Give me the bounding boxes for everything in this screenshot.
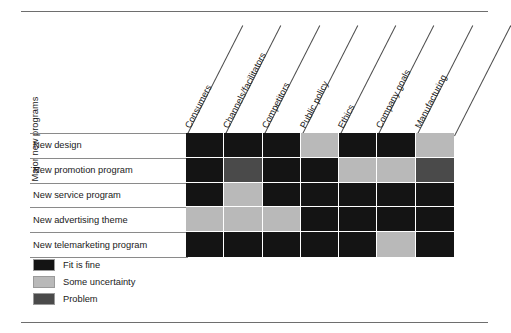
matrix-cell <box>263 207 301 232</box>
column-label: Channels/facilitators <box>221 51 268 130</box>
row-separator <box>30 133 188 134</box>
legend-label: Some uncertainty <box>63 277 135 287</box>
row-separator <box>30 183 188 184</box>
row-label: New promotion program <box>33 165 188 175</box>
matrix-cell <box>186 158 224 183</box>
column-label: Public policy <box>298 79 330 130</box>
top-divider-rule <box>21 11 488 12</box>
matrix-cell <box>377 183 415 208</box>
row-label: New service program <box>33 190 188 200</box>
matrix-cell <box>301 133 339 158</box>
legend-item: Problem <box>33 291 233 307</box>
matrix-cell <box>416 183 454 208</box>
matrix-cell <box>186 207 224 232</box>
matrix-cell <box>339 158 377 183</box>
row-label: New advertising theme <box>33 215 188 225</box>
matrix-cell <box>301 183 339 208</box>
matrix-cell <box>186 183 224 208</box>
row-label: New telemarketing program <box>33 240 188 250</box>
row-label: New design <box>33 140 188 150</box>
legend-item: Some uncertainty <box>33 274 233 290</box>
matrix-cell <box>377 158 415 183</box>
matrix-cell <box>377 232 415 257</box>
row-separator <box>30 158 188 159</box>
matrix-cell <box>416 158 454 183</box>
matrix-cell <box>263 232 301 257</box>
matrix-cell <box>301 158 339 183</box>
matrix-cell <box>339 207 377 232</box>
matrix-cell <box>224 183 262 208</box>
column-label: Manufacturing <box>413 73 449 130</box>
matrix-cell <box>339 183 377 208</box>
matrix-cell <box>263 133 301 158</box>
legend-swatch-some <box>33 276 55 288</box>
matrix-cell <box>377 133 415 158</box>
matrix-cell <box>339 232 377 257</box>
matrix-cell <box>224 207 262 232</box>
matrix-cell <box>224 158 262 183</box>
legend-item: Fit is fine <box>33 257 233 273</box>
legend-swatch-fit <box>33 259 55 271</box>
matrix-cell <box>224 232 262 257</box>
legend: Fit is fineSome uncertaintyProblem <box>33 257 233 308</box>
legend-label: Problem <box>63 294 98 304</box>
matrix-cell <box>263 158 301 183</box>
column-label: Company goals <box>375 68 413 130</box>
matrix-cell <box>263 183 301 208</box>
column-label: Competitors <box>260 81 292 130</box>
fit-matrix-grid <box>186 133 454 257</box>
bottom-divider-rule <box>21 322 488 323</box>
matrix-cell <box>416 207 454 232</box>
matrix-cell <box>301 207 339 232</box>
matrix-cell <box>416 133 454 158</box>
column-headers: ConsumersChannels/facilitatorsCompetitor… <box>150 18 500 136</box>
matrix-cell <box>377 207 415 232</box>
matrix-cell <box>416 232 454 257</box>
matrix-cell <box>339 133 377 158</box>
row-labels: New designNew promotion programNew servi… <box>30 131 188 259</box>
matrix-cell <box>186 232 224 257</box>
matrix-cell <box>186 133 224 158</box>
legend-label: Fit is fine <box>63 260 100 270</box>
matrix-cell <box>224 133 262 158</box>
matrix-cell <box>301 232 339 257</box>
row-separator <box>30 232 188 233</box>
column-label: Ethics <box>336 103 356 130</box>
legend-swatch-problem <box>33 293 55 305</box>
row-separator <box>30 207 188 208</box>
column-label: Consumers <box>183 83 213 130</box>
